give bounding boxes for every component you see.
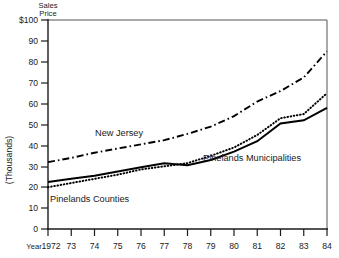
y-tick-label: 50 — [28, 120, 38, 130]
x-tick-label: 83 — [299, 241, 309, 251]
series-line-pinelands-counties — [48, 108, 327, 182]
y-axis-tick-labels: $100 90 80 70 60 50 40 30 20 10 0 — [19, 15, 38, 234]
y-tick-label: 20 — [28, 182, 38, 192]
x-tick-label: 76 — [136, 241, 146, 251]
x-axis-label: Year — [26, 242, 42, 251]
x-tick-label: 82 — [276, 241, 286, 251]
chart-title: Sales Price — [39, 1, 58, 19]
x-tick-label: 80 — [229, 241, 239, 251]
series-annotations: New Jersey Pinelands Counties Pinelands … — [50, 128, 301, 204]
y-tick-label: 40 — [28, 141, 38, 151]
y-tick-label: 60 — [28, 99, 38, 109]
y-tick-label: 90 — [28, 36, 38, 46]
x-tick-label: 75 — [113, 241, 123, 251]
annotation-pinelands-counties: Pinelands Counties — [50, 194, 130, 204]
x-tick-label: 73 — [66, 241, 76, 251]
y-axis-label: (Thousands) — [4, 136, 14, 184]
y-axis-ticks — [41, 20, 48, 229]
x-tick-label: 84 — [322, 241, 332, 251]
y-tick-label: 30 — [28, 162, 38, 172]
x-tick-label: 74 — [90, 241, 100, 251]
x-axis-ticks — [48, 229, 327, 236]
x-axis-tick-labels: 1972 73 74 75 76 77 78 79 80 81 82 83 84 — [41, 241, 332, 251]
y-tick-label: 0 — [33, 224, 38, 234]
sales-price-line-chart: $100 90 80 70 60 50 40 30 20 10 0 Sales … — [0, 0, 339, 258]
annotation-pinelands-municipalities: Pinelands Municipalities — [203, 153, 301, 163]
x-tick-label: 1972 — [41, 241, 60, 251]
y-tick-label: 80 — [28, 57, 38, 67]
annotation-new-jersey: New Jersey — [95, 128, 143, 138]
y-tick-label: $100 — [19, 15, 38, 25]
series-group — [48, 51, 327, 187]
series-line-pinelands-municipalities — [48, 93, 327, 187]
chart-canvas: $100 90 80 70 60 50 40 30 20 10 0 Sales … — [0, 0, 339, 258]
x-tick-label: 78 — [183, 241, 193, 251]
chart-title-line2: Price — [39, 9, 56, 18]
y-tick-label: 70 — [28, 78, 38, 88]
x-tick-label: 77 — [159, 241, 169, 251]
series-line-new-jersey — [48, 51, 327, 162]
y-tick-label: 10 — [28, 203, 38, 213]
x-tick-label: 81 — [252, 241, 262, 251]
x-tick-label: 79 — [206, 241, 216, 251]
